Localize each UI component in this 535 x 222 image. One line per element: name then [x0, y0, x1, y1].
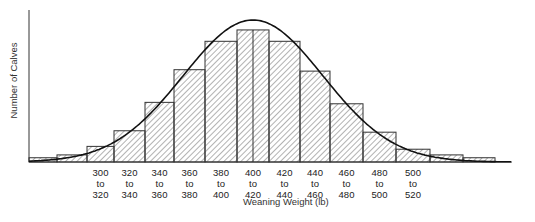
tick-text-top: 500 [398, 167, 428, 178]
x-tick-label: 460to480 [332, 167, 362, 200]
histogram-bar [330, 104, 363, 162]
tick-text-bottom: 480 [332, 189, 362, 200]
x-tick-label: 340to360 [145, 167, 175, 200]
tick-text-bottom: 500 [365, 189, 395, 200]
histogram-chart: Number of Calves 300to320320to340340to36… [0, 0, 535, 222]
tick-text-mid: to [300, 178, 330, 189]
x-tick-label: 380to400 [206, 167, 236, 200]
x-tick-label: 300to320 [86, 167, 116, 200]
tick-text-mid: to [206, 178, 236, 189]
histogram-bar [269, 41, 300, 162]
x-tick-label: 360to380 [175, 167, 205, 200]
histogram-bar [174, 70, 205, 162]
tick-text-mid: to [270, 178, 300, 189]
histogram-bars [29, 30, 495, 162]
tick-text-bottom: 360 [145, 189, 175, 200]
histogram-bar [145, 102, 174, 162]
tick-text-bottom: 340 [115, 189, 145, 200]
tick-text-top: 320 [115, 167, 145, 178]
tick-text-top: 480 [365, 167, 395, 178]
tick-text-mid: to [332, 178, 362, 189]
tick-text-top: 440 [300, 167, 330, 178]
tick-text-bottom: 380 [175, 189, 205, 200]
tick-text-bottom: 320 [86, 189, 116, 200]
tick-text-top: 300 [86, 167, 116, 178]
tick-text-top: 380 [206, 167, 236, 178]
x-tick-label: 480to500 [365, 167, 395, 200]
tick-text-bottom: 520 [398, 189, 428, 200]
tick-text-top: 420 [270, 167, 300, 178]
histogram-bar [205, 41, 237, 162]
tick-text-mid: to [398, 178, 428, 189]
y-axis-label: Number of Calves [8, 26, 19, 136]
tick-text-mid: to [115, 178, 145, 189]
histogram-bar [363, 132, 396, 162]
x-tick-label: 320to340 [115, 167, 145, 200]
histogram-bar [114, 131, 145, 162]
tick-text-top: 360 [175, 167, 205, 178]
tick-text-top: 400 [238, 167, 268, 178]
tick-text-mid: to [365, 178, 395, 189]
tick-text-top: 460 [332, 167, 362, 178]
tick-text-mid: to [86, 178, 116, 189]
tick-text-top: 340 [145, 167, 175, 178]
tick-text-mid: to [145, 178, 175, 189]
tick-text-mid: to [238, 178, 268, 189]
x-tick-label: 500to520 [398, 167, 428, 200]
histogram-bar [300, 71, 330, 162]
tick-text-mid: to [175, 178, 205, 189]
tick-text-bottom: 400 [206, 189, 236, 200]
